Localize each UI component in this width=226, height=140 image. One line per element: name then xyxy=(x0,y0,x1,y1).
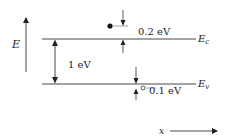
energy-axis-label: E xyxy=(12,40,20,50)
band-diagram xyxy=(0,0,226,140)
hole-circle xyxy=(141,86,145,90)
gap-label: 1 eV xyxy=(68,60,91,70)
electron-offset-label: 0.2 eV xyxy=(138,27,170,37)
position-axis-label: x xyxy=(159,126,164,136)
hole-offset-label: 0.1 eV xyxy=(149,86,181,96)
electron-dot xyxy=(107,23,112,28)
conduction-band-label: Ec xyxy=(198,34,209,47)
valence-band-label: Ev xyxy=(198,79,209,92)
